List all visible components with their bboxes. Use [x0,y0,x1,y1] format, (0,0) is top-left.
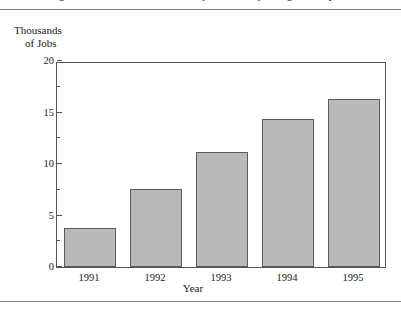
y-axis-tick-label: 0 [49,260,54,273]
horizontal-rule-top [0,9,401,10]
x-axis-tick-label: 1993 [188,272,254,283]
y-axis-minor-tick [57,137,60,138]
x-axis-tick-label: 1992 [122,272,188,283]
plot-inner: 05101520 [57,63,385,267]
y-axis-title-line1: Thousands [14,24,62,36]
y-axis-tick: 15 [57,112,62,113]
figure-caption: Figure 1Estimated Jobs Created by New Ac… [0,0,401,7]
x-axis-tick-label: 1994 [254,272,320,283]
bar-1992 [130,189,182,267]
y-axis-title: Thousands of Jobs [14,24,62,50]
bar-1994 [262,119,314,267]
y-axis-title-line2: of Jobs [25,37,62,50]
plot-area: 05101520 [56,62,386,268]
horizontal-rule-bottom [0,301,401,302]
y-axis-minor-tick [57,86,60,87]
x-axis-tick-label: 1995 [320,272,386,283]
figure-caption-text: Estimated Jobs Created by New Activity a… [95,0,350,1]
y-axis-tick-label: 15 [44,106,55,119]
figure-caption-label: Figure 1 [51,0,86,1]
y-axis-tick: 20 [57,60,62,61]
bar-1995 [328,99,380,267]
bar-1991 [64,228,116,267]
bar-1993 [196,152,248,267]
y-axis-tick-label: 10 [44,157,55,170]
y-axis-tick: 10 [57,163,62,164]
x-axis-tick-label: 1991 [56,272,122,283]
y-axis-tick-label: 20 [44,54,55,67]
x-axis-title: Year [0,282,386,294]
y-axis-tick: 5 [57,215,62,216]
y-axis-tick: 0 [57,266,62,267]
y-axis-minor-tick [57,240,60,241]
y-axis-minor-tick [57,189,60,190]
y-axis-tick-label: 5 [49,209,54,222]
